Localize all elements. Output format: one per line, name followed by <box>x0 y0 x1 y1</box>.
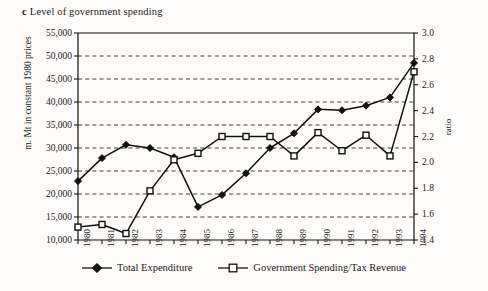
chart-legend: Total Expenditure Government Spending/Ta… <box>0 262 488 274</box>
data-point-marker <box>243 134 249 140</box>
plot-area <box>0 0 488 291</box>
legend-item-total-expenditure: Total Expenditure <box>82 262 192 274</box>
chart-figure: cLevel of government spending m. Mt in c… <box>0 0 488 291</box>
filled-diamond-icon <box>82 262 112 274</box>
data-point-marker <box>363 102 370 109</box>
series-spending-tax-ratio <box>75 69 417 237</box>
data-point-marker <box>219 134 225 140</box>
data-point-marker <box>147 145 154 152</box>
data-point-marker <box>195 150 201 156</box>
legend-label-spending-tax-ratio: Government Spending/Tax Revenue <box>253 263 406 274</box>
data-point-marker <box>387 153 393 159</box>
data-point-marker <box>339 107 346 114</box>
data-point-marker <box>195 203 202 210</box>
data-point-marker <box>123 231 129 237</box>
data-point-marker <box>147 188 153 194</box>
data-point-marker <box>291 153 297 159</box>
data-point-marker <box>171 157 177 163</box>
data-point-marker <box>411 69 417 75</box>
data-point-marker <box>75 224 81 230</box>
data-point-marker <box>99 221 105 227</box>
data-point-marker <box>123 141 130 148</box>
legend-item-spending-tax-ratio: Government Spending/Tax Revenue <box>218 262 406 274</box>
data-point-marker <box>339 148 345 154</box>
data-point-marker <box>315 130 321 136</box>
data-point-marker <box>267 134 273 140</box>
series-line <box>78 72 414 234</box>
legend-label-total-expenditure: Total Expenditure <box>117 263 192 274</box>
data-point-marker <box>363 132 369 138</box>
open-square-icon <box>218 262 248 274</box>
